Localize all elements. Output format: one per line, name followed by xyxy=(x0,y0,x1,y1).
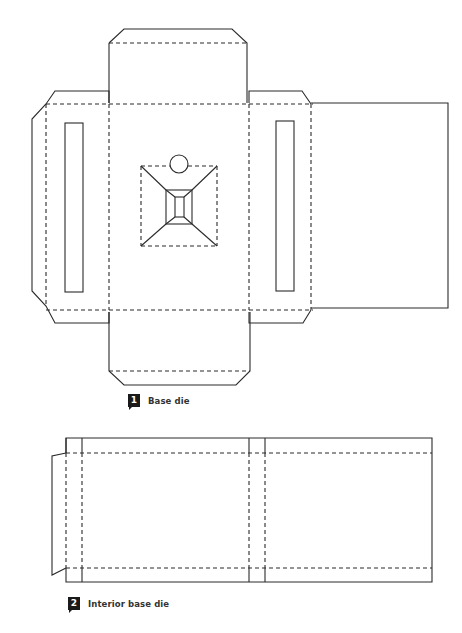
base-die xyxy=(32,29,448,385)
bottom-flap xyxy=(109,312,250,385)
left-glue-tab xyxy=(52,453,66,575)
figure-1-caption: 1 Base die xyxy=(128,394,190,407)
figure-caption-text: Interior base die xyxy=(88,599,169,609)
figure-number-badge: 2 xyxy=(68,597,80,610)
interior-base-die xyxy=(52,438,432,582)
right-slot xyxy=(276,121,294,291)
pyramid-mount xyxy=(141,155,217,246)
right-side-panel xyxy=(249,91,311,104)
pyramid-outer xyxy=(166,190,192,224)
left-slot xyxy=(65,123,83,292)
figure-caption-text: Base die xyxy=(148,396,190,406)
pyramid-inner xyxy=(175,197,184,217)
figure-2-caption: 2 Interior base die xyxy=(68,597,169,610)
die-diagram xyxy=(0,0,462,633)
left-side-panel xyxy=(32,91,109,323)
right-extension-panel xyxy=(311,103,448,308)
top-flap xyxy=(109,29,247,103)
mount-circle xyxy=(170,155,188,173)
figure-number-badge: 1 xyxy=(128,394,140,407)
